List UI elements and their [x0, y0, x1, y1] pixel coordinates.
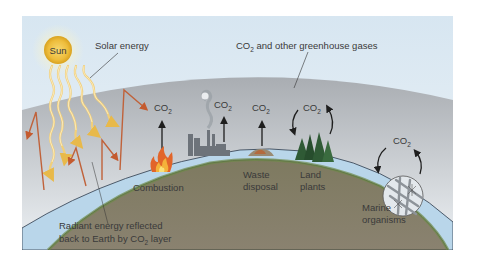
marine-label-line2: organisms: [362, 214, 406, 225]
solar-energy-label: Solar energy: [95, 40, 149, 51]
land-label-line2: plants: [300, 181, 326, 192]
marine-label-line1: Marine: [362, 202, 391, 213]
sun-label: Sun: [50, 45, 67, 56]
waste-label-line2: disposal: [243, 181, 278, 192]
greenhouse-diagram: Sun Solar energy CO2 and other greenhous…: [0, 0, 479, 265]
land-label-line1: Land: [300, 169, 321, 180]
combustion-label: Combustion: [133, 182, 184, 193]
radiant-energy-label-line1: Radiant energy reflected: [59, 220, 163, 231]
waste-label-line1: Waste: [243, 169, 270, 180]
